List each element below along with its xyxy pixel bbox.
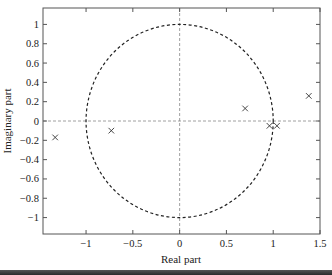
y-axis-label: Imaginary part (1, 88, 13, 153)
x-axis-label: Real part (161, 253, 201, 265)
y-tick-label: −1 (28, 212, 39, 223)
y-tick-label: 0.8 (26, 38, 39, 49)
y-tick-label: 0.4 (26, 77, 40, 88)
x-tick-label: −1 (80, 238, 91, 249)
y-tick-label: −0.8 (20, 193, 39, 204)
y-tick-label: −0.6 (20, 173, 39, 184)
y-tick-label: 1 (34, 19, 39, 30)
x-tick-label: 0 (177, 238, 182, 249)
bottom-border-bar (0, 270, 332, 275)
x-tick-label: −0.5 (123, 238, 142, 249)
x-tick-label: 0.5 (220, 238, 233, 249)
x-tick-label: 1 (271, 238, 276, 249)
y-tick-label: 0.2 (26, 96, 39, 107)
x-tick-label: 1.5 (313, 238, 326, 249)
y-tick-label: −0.2 (20, 135, 39, 146)
y-tick-label: −0.4 (20, 154, 40, 165)
pole-zero-plot: −1−0.500.511.5 10.80.60.40.20−0.2−0.4−0.… (0, 0, 332, 270)
y-tick-label: 0 (34, 116, 39, 127)
y-tick-label: 0.6 (26, 58, 39, 69)
